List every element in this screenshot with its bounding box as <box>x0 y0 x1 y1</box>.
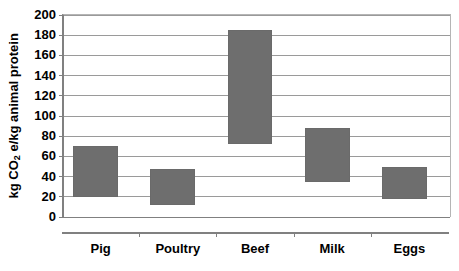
y-axis-tick-label: 60 <box>42 148 56 163</box>
y-axis-tick-label: 100 <box>34 108 56 123</box>
y-axis-tick-label: 120 <box>34 87 56 102</box>
y-axis-tick-label: 140 <box>34 67 56 82</box>
y-axis-title-text: kg CO2 e/kg animal protein <box>6 33 22 198</box>
bar-pig[interactable] <box>73 146 118 197</box>
y-axis-tick-label: 200 <box>34 7 56 22</box>
x-axis-tickmark <box>139 232 140 237</box>
x-axis-tick-label-eggs: Eggs <box>393 241 425 256</box>
chart-container: kg CO2 e/kg animal protein 0204060801001… <box>0 0 459 271</box>
x-axis-tickmark <box>294 232 295 237</box>
x-axis-tickmark <box>216 232 217 237</box>
x-axis-tick-label-milk: Milk <box>320 241 345 256</box>
y-axis-tick-label: 40 <box>42 168 56 183</box>
bar-slot <box>296 15 373 217</box>
y-axis-tick-labels: 020406080100120140160180200 <box>26 14 60 216</box>
bar-eggs[interactable] <box>382 167 427 199</box>
bar-slot <box>373 15 450 217</box>
y-axis-tick-label: 80 <box>42 128 56 143</box>
x-axis-tickmark <box>371 232 372 237</box>
bars-layer <box>64 15 450 217</box>
bar-slot <box>218 15 295 217</box>
bar-poultry[interactable] <box>150 169 195 205</box>
bar-milk[interactable] <box>305 128 350 182</box>
plot-area <box>62 14 451 217</box>
y-axis-title-subscript: 2 <box>12 155 22 160</box>
y-axis-tick-label: 180 <box>34 27 56 42</box>
bar-beef[interactable] <box>228 30 273 144</box>
x-axis-line <box>62 232 449 234</box>
y-axis-tick-label: 0 <box>49 209 56 224</box>
bar-slot <box>141 15 218 217</box>
y-axis-title-suffix: e/kg animal protein <box>6 33 21 155</box>
x-axis-tick-labels: PigPoultryBeefMilkEggs <box>62 241 448 265</box>
y-axis-title-prefix: kg CO <box>6 160 21 198</box>
bar-slot <box>64 15 141 217</box>
x-axis-tick-label-beef: Beef <box>241 241 269 256</box>
x-axis-tick-label-poultry: Poultry <box>155 241 200 256</box>
y-axis-tick-label: 160 <box>34 47 56 62</box>
y-axis-tick-label: 20 <box>42 188 56 203</box>
y-axis-title: kg CO2 e/kg animal protein <box>0 0 28 232</box>
x-axis-tick-label-pig: Pig <box>90 241 110 256</box>
